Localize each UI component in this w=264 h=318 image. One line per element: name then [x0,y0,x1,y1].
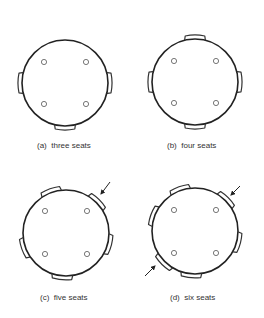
arrow-icon [231,186,240,195]
table-leg [41,101,46,106]
table-leg [83,59,88,64]
panel-c [20,182,113,280]
table-leg [42,208,47,213]
table-outline [23,190,109,276]
panel-a [18,40,112,130]
panel-d [145,185,242,278]
table-leg [171,207,176,212]
table-leg [171,250,176,255]
table-leg [171,100,176,105]
table-leg [213,207,218,212]
panel-caption-d: (d) six seats [170,294,215,302]
arrow-icon [101,182,110,194]
table-leg [213,100,218,105]
table-leg [83,101,88,106]
panel-caption-c: (c) five seats [40,294,88,302]
seat [156,254,173,271]
panel-caption-b: (b) four seats [167,142,216,150]
panel-caption-a: (a) three seats [37,142,91,150]
seating-diagram [0,0,264,318]
table-leg [42,251,47,256]
table-leg [171,58,176,63]
table-outline [152,188,238,274]
arrow-icon [145,266,155,276]
table-leg [84,208,89,213]
table-outline [22,40,108,126]
table-leg [41,59,46,64]
table-leg [213,58,218,63]
table-leg [84,251,89,256]
table-leg [213,250,218,255]
seat [89,194,106,211]
panel-b [148,35,242,129]
table-outline [152,39,238,125]
